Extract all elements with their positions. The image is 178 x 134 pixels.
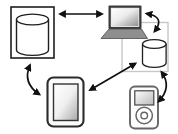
database-node: [11, 7, 54, 58]
sync-diagram: [0, 0, 178, 134]
tablet-icon: [48, 78, 84, 127]
small-cylinder-icon: [143, 40, 167, 68]
database-cylinder-icon: [17, 14, 49, 55]
arrow-tablet-localdb: [90, 64, 136, 91]
click-wheel-center: [141, 112, 148, 119]
arrow-database-tablet: [27, 65, 39, 95]
laptop-icon: [101, 6, 148, 39]
media-player-icon: [130, 87, 158, 129]
tablet-screen: [54, 84, 79, 121]
media-player-screen: [135, 91, 154, 105]
laptop-screen: [111, 8, 139, 26]
laptop-base: [101, 29, 148, 39]
arrow-localdb-mediaplayer: [159, 72, 167, 102]
